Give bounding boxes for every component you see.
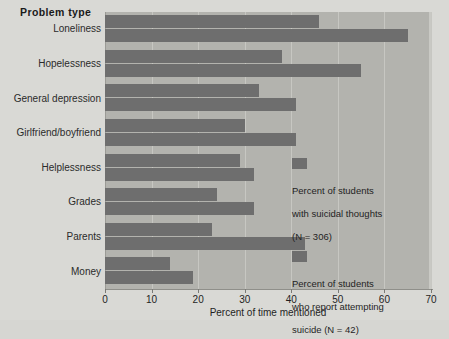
legend-entry: Percent of students who report attemptin… (292, 251, 424, 335)
x-tick-label: 70 (425, 294, 436, 305)
bar (105, 223, 212, 236)
x-tick-label: 20 (193, 294, 204, 305)
legend-line: suicide (N = 42) (292, 324, 359, 335)
category-label: Parents (0, 231, 101, 242)
bar (105, 64, 361, 77)
bar (105, 168, 254, 181)
category-label: Hopelessness (0, 58, 101, 69)
bar-group (105, 83, 431, 113)
bar (105, 29, 408, 42)
bar-group (105, 118, 431, 148)
x-tick (431, 289, 432, 293)
bar (105, 154, 240, 167)
category-label: Loneliness (0, 23, 101, 34)
legend-line: who report attempting (292, 301, 384, 312)
x-tick-label: 0 (102, 294, 108, 305)
legend-line: with suicidal thoughts (292, 208, 382, 219)
bar (105, 133, 296, 146)
bar (105, 237, 305, 250)
x-tick (105, 289, 106, 293)
bar-group (105, 14, 431, 44)
legend-line: (N = 306) (292, 231, 332, 242)
legend-label: Percent of students with suicidal though… (292, 173, 424, 242)
legend-swatch-icon (292, 251, 307, 262)
x-tick (245, 289, 246, 293)
bar (105, 50, 282, 63)
bar (105, 98, 296, 111)
bar (105, 271, 193, 284)
bar (105, 188, 217, 201)
legend-line: Percent of students (292, 278, 374, 289)
chart-legend: Percent of students with suicidal though… (292, 158, 424, 339)
x-tick-label: 10 (146, 294, 157, 305)
category-label: Helplessness (0, 162, 101, 173)
legend-swatch-icon (292, 158, 307, 169)
category-axis-labels: LonelinessHopelessnessGeneral depression… (0, 12, 101, 289)
legend-label: Percent of students who report attemptin… (292, 266, 424, 335)
category-label: Money (0, 266, 101, 277)
bar (105, 15, 319, 28)
bar (105, 257, 170, 270)
legend-line: Percent of students (292, 185, 374, 196)
legend-entry: Percent of students with suicidal though… (292, 158, 424, 242)
bar (105, 84, 259, 97)
x-tick (152, 289, 153, 293)
x-tick (198, 289, 199, 293)
category-label: Girlfriend/boyfriend (0, 127, 101, 138)
bar-group (105, 49, 431, 79)
category-label: Grades (0, 196, 101, 207)
bar (105, 202, 254, 215)
category-label: General depression (0, 93, 101, 104)
gridline (431, 12, 432, 289)
x-tick-label: 30 (239, 294, 250, 305)
bar (105, 119, 245, 132)
